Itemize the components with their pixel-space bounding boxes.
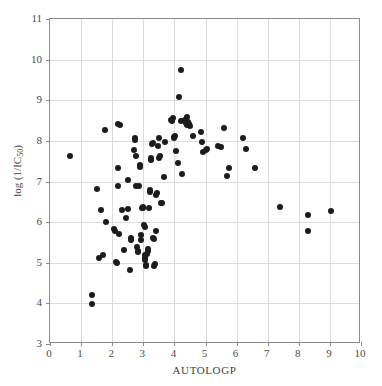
y-axis-tick-label: 4 xyxy=(20,297,42,308)
data-point xyxy=(152,261,158,267)
scatter-chart-figure: AUTOLOGP log (1/IC50) 012345678910345678… xyxy=(0,0,382,386)
data-point xyxy=(204,146,210,152)
gridline-vertical xyxy=(206,19,207,342)
data-point xyxy=(190,133,196,139)
data-point xyxy=(154,190,160,196)
y-axis-tick xyxy=(46,222,50,223)
data-point xyxy=(100,252,106,258)
x-axis-tick-label: 9 xyxy=(317,348,341,359)
gridline-vertical xyxy=(174,19,175,342)
x-axis-tick-label: 7 xyxy=(255,348,279,359)
x-axis-tick-label: 1 xyxy=(68,348,92,359)
gridline-horizontal xyxy=(50,222,359,223)
data-point xyxy=(102,127,108,133)
data-point xyxy=(157,153,163,159)
data-point xyxy=(117,122,123,128)
data-point xyxy=(121,247,127,253)
data-point xyxy=(125,177,131,183)
data-point xyxy=(131,147,137,153)
data-point xyxy=(114,260,120,266)
data-point xyxy=(179,171,185,177)
data-point xyxy=(94,186,100,192)
y-axis-tick-label: 3 xyxy=(20,338,42,349)
y-axis-tick xyxy=(46,100,50,101)
data-point xyxy=(125,206,131,212)
data-point xyxy=(119,207,125,213)
gridline-vertical xyxy=(81,19,82,342)
data-point xyxy=(226,165,232,171)
data-point xyxy=(161,174,167,180)
data-point xyxy=(176,94,182,100)
data-point xyxy=(243,146,249,152)
x-axis-tick-label: 4 xyxy=(161,348,185,359)
data-point xyxy=(116,231,122,237)
x-axis-tick xyxy=(81,342,82,346)
data-point xyxy=(159,200,165,206)
y-axis-tick-label: 5 xyxy=(20,257,42,268)
x-axis-tick xyxy=(268,342,269,346)
gridline-vertical xyxy=(299,19,300,342)
x-axis-tick xyxy=(50,342,51,346)
data-point xyxy=(89,292,95,298)
x-axis-tick-label: 10 xyxy=(348,348,372,359)
data-point xyxy=(187,123,193,129)
data-point xyxy=(137,164,143,170)
data-point xyxy=(173,148,179,154)
x-axis-tick xyxy=(299,342,300,346)
x-axis-title: AUTOLOGP xyxy=(49,364,360,376)
data-point xyxy=(142,224,148,230)
gridline-vertical xyxy=(112,19,113,342)
data-point xyxy=(199,139,205,145)
data-point xyxy=(305,228,311,234)
y-axis-tick xyxy=(46,263,50,264)
x-axis-tick-label: 3 xyxy=(130,348,154,359)
data-point xyxy=(115,165,121,171)
data-point xyxy=(155,143,161,149)
gridline-horizontal xyxy=(50,263,359,264)
data-point xyxy=(178,67,184,73)
data-point xyxy=(221,125,227,131)
x-axis-tick xyxy=(237,342,238,346)
data-point xyxy=(328,208,334,214)
gridline-vertical xyxy=(268,19,269,342)
x-axis-tick xyxy=(112,342,113,346)
x-axis-tick xyxy=(174,342,175,346)
y-axis-tick-label: 11 xyxy=(20,13,42,24)
data-point xyxy=(133,153,139,159)
data-point xyxy=(136,183,142,189)
y-axis-tick xyxy=(46,19,50,20)
gridline-horizontal xyxy=(50,100,359,101)
y-axis-tick-label: 6 xyxy=(20,216,42,227)
data-point xyxy=(175,160,181,166)
x-axis-tick-label: 2 xyxy=(99,348,123,359)
data-point xyxy=(132,137,138,143)
data-point xyxy=(305,212,311,218)
data-point xyxy=(127,267,133,273)
y-axis-title-subscript: 50 xyxy=(16,149,25,157)
x-axis-tick-label: 5 xyxy=(193,348,217,359)
x-axis-tick xyxy=(330,342,331,346)
x-axis-tick xyxy=(206,342,207,346)
y-axis-tick xyxy=(46,182,50,183)
y-axis-tick-label: 8 xyxy=(20,135,42,146)
data-point xyxy=(89,301,95,307)
y-axis-tick-label: 9 xyxy=(20,94,42,105)
y-axis-tick-label: 7 xyxy=(20,176,42,187)
y-axis-tick xyxy=(46,60,50,61)
data-point xyxy=(146,205,152,211)
data-point xyxy=(115,183,121,189)
data-point xyxy=(252,165,258,171)
data-point xyxy=(224,173,230,179)
gridline-vertical xyxy=(143,19,144,342)
data-point xyxy=(103,219,109,225)
gridline-horizontal xyxy=(50,182,359,183)
x-axis-tick-label: 6 xyxy=(224,348,248,359)
data-point xyxy=(151,236,157,242)
data-point xyxy=(128,237,134,243)
data-point xyxy=(98,207,104,213)
x-axis-tick-label: 0 xyxy=(37,348,61,359)
data-point xyxy=(162,139,168,145)
data-point xyxy=(145,248,151,254)
data-point xyxy=(67,153,73,159)
data-point xyxy=(123,215,129,221)
